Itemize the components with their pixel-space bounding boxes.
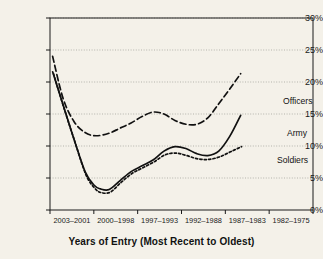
series-line-army <box>53 72 241 190</box>
y-tick-label: 0% <box>280 205 323 215</box>
x-tick-label: 2003–2001 <box>53 216 90 225</box>
y-tick-label: 20% <box>280 77 323 87</box>
x-axis-ticks <box>50 210 313 214</box>
y-tick-label: 10% <box>280 141 323 151</box>
series-label-officers: Officers <box>283 96 312 106</box>
chart-container: 0%5%10%15%20%25%30% 2003–20012000–199819… <box>0 0 323 259</box>
x-tick-label: 1992–1988 <box>185 216 222 225</box>
y-tick-label: 25% <box>280 45 323 55</box>
x-tick-label: 1997–1993 <box>141 216 178 225</box>
x-axis-title: Years of Entry (Most Recent to Oldest) <box>0 236 323 247</box>
x-tick-label: 1982–1975 <box>273 216 310 225</box>
y-axis-ticks <box>46 18 50 210</box>
y-tick-label: 15% <box>280 109 323 119</box>
y-tick-label: 30% <box>280 13 323 23</box>
data-series <box>53 56 242 193</box>
series-label-army: Army <box>287 128 307 138</box>
series-label-soldiers: Soldiers <box>277 155 308 165</box>
series-line-officers <box>53 56 241 135</box>
x-tick-label: 2000–1998 <box>97 216 134 225</box>
series-line-soldiers <box>54 74 242 194</box>
y-tick-label: 5% <box>280 173 323 183</box>
x-tick-label: 1987–1983 <box>229 216 266 225</box>
